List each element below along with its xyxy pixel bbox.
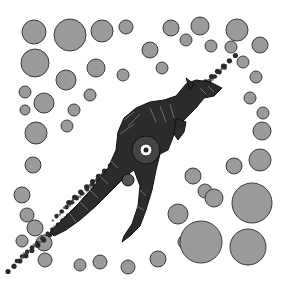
large-dot (20, 105, 30, 115)
large-dot (180, 34, 192, 46)
kangaroo-dot-art (0, 0, 286, 293)
large-dot (163, 20, 179, 36)
large-dot (93, 255, 107, 269)
kangaroo-figure (50, 78, 222, 242)
large-dot (19, 86, 31, 98)
large-dot (25, 157, 41, 173)
large-dot (180, 221, 222, 263)
large-dot (225, 41, 237, 53)
large-dot (38, 253, 52, 267)
large-dot (142, 42, 158, 58)
large-dot (54, 19, 86, 51)
large-dot (230, 229, 266, 265)
large-dot (232, 183, 272, 223)
large-dot (119, 20, 133, 34)
large-dot (237, 56, 249, 68)
large-dot (16, 235, 28, 247)
large-dot (121, 260, 135, 274)
large-dot (25, 122, 47, 144)
large-dot (56, 70, 76, 90)
large-dot (249, 149, 271, 171)
large-dot (226, 19, 248, 41)
large-dot (253, 122, 271, 140)
large-dot (117, 69, 129, 81)
large-dot (156, 62, 168, 74)
large-dot (68, 104, 80, 116)
large-dot (20, 208, 34, 222)
large-dot (87, 59, 105, 77)
large-dot (21, 49, 49, 77)
large-dot (150, 251, 166, 267)
large-dot (22, 20, 46, 44)
large-dot (74, 259, 86, 271)
large-dot (257, 107, 269, 119)
large-dot (226, 158, 242, 174)
large-dot (205, 189, 223, 207)
large-dot (205, 40, 217, 52)
large-dot (61, 120, 73, 132)
large-dot (252, 37, 268, 53)
large-dot (84, 89, 96, 101)
large-dot (168, 204, 188, 224)
large-dot (191, 17, 209, 35)
large-dot (14, 187, 30, 203)
large-dot (250, 71, 262, 83)
large-dot (27, 220, 43, 236)
large-dot (244, 92, 256, 104)
large-dot (185, 168, 201, 184)
large-dot (34, 93, 54, 113)
large-dot (91, 20, 113, 42)
